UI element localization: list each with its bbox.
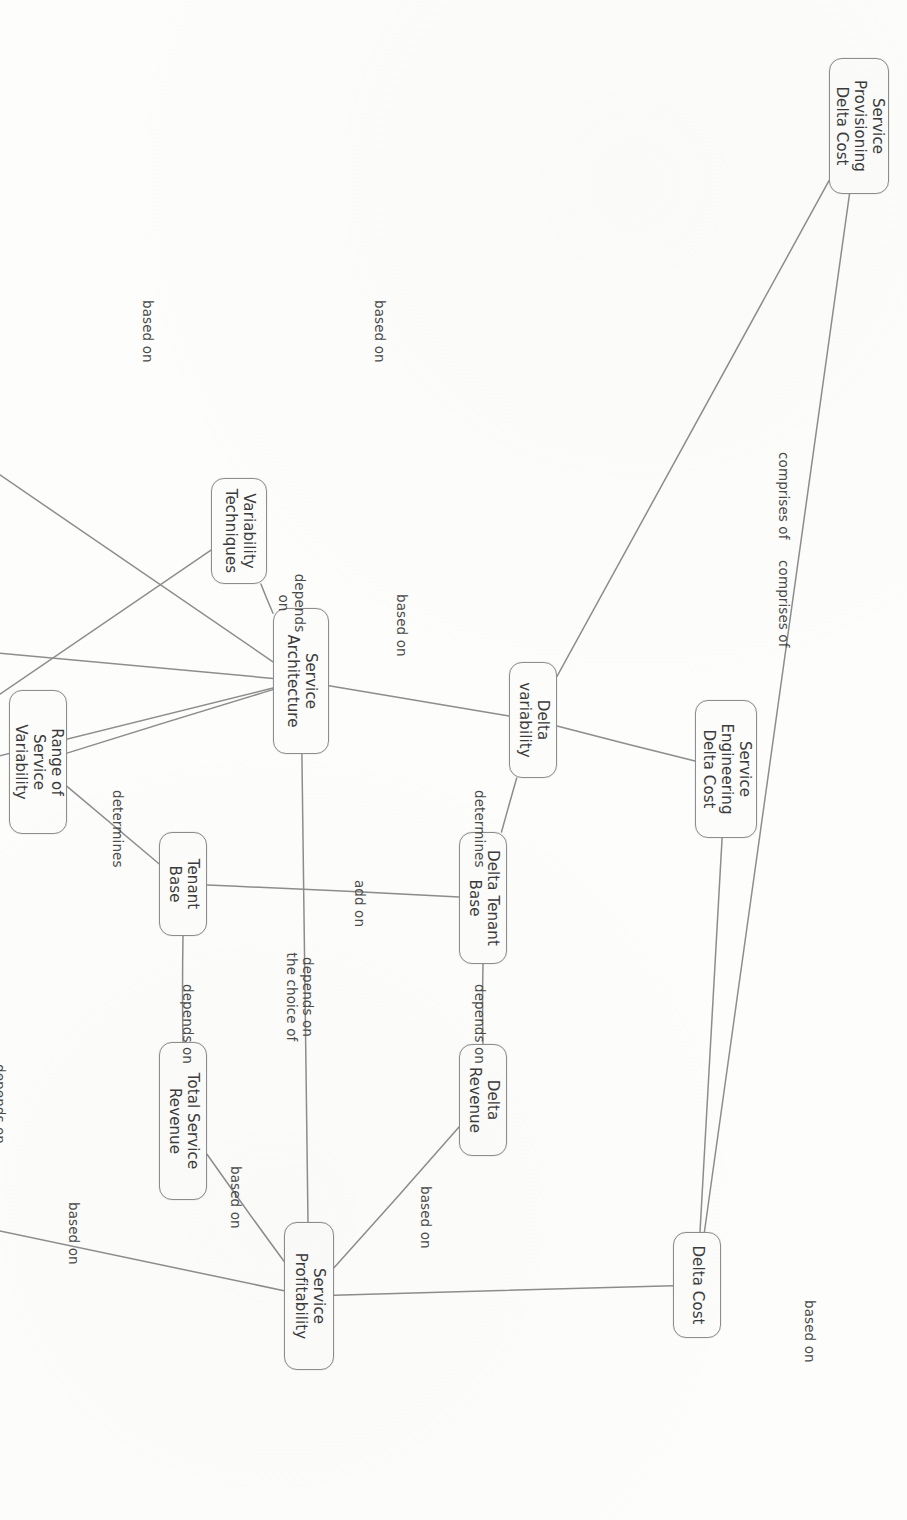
edge-label-comprises-of-1: comprises of [775,452,791,540]
concept-map: Service Provisioning Delta Cost Service … [0,0,907,1520]
node-service-provisioning-delta-cost[interactable]: Service Provisioning Delta Cost [829,58,889,194]
edge-delta-tenant-base-to-tenant-base [207,885,459,897]
node-service-profitability[interactable]: Service Profitability [284,1222,334,1370]
edge-service-architecture-to-service-provisioing-cost [0,199,273,662]
edge-service-architecture-to-range-of-service-variability [67,690,273,754]
edge-label-line2: the choice of [284,953,300,1042]
node-variability-techniques[interactable]: Variability Techniques [211,478,267,584]
node-label-line2: Delta Cost [832,64,850,188]
node-label-line2: Techniques [221,489,239,573]
node-label-line1: Range of [47,696,65,828]
edge-label-depends-on-deltarevenue: depends on [471,984,487,1064]
edge-service-profitability-to-delta-revenue [334,1127,459,1268]
edge-label-line1: depends [292,574,308,633]
node-range-of-service-variability[interactable]: Range of Service Variability [9,690,67,834]
edge-delta-tenant-base-to-delta-variability [502,778,517,832]
node-label: Delta Cost [688,1245,706,1324]
edge-delta-variability-to-service-engineering-delta-cost [557,726,695,761]
edge-service-architecture-to-delta-variability [329,686,509,716]
edge-service-architecture-to-variability-techniques [261,584,273,613]
node-delta-cost[interactable]: Delta Cost [673,1232,721,1338]
edge-label-based-on-sp-deltarevenue: based on [417,1186,433,1249]
edge-label-depends-on-sp: depends on [0,1064,7,1144]
edge-delta-cost-to-service-engineering-delta-cost [700,838,722,1232]
edge-label-depends-on-the-choice-of: depends on the choice of [284,942,315,1052]
node-label-line2: Delta Cost [699,706,717,832]
edge-label-based-on-deltavar-spdelta: based on [371,300,387,363]
node-label-line2: Service Variability [11,696,46,828]
node-delta-variability[interactable]: Delta variability [509,662,557,778]
edge-label-based-on-deltacost: based on [801,1300,817,1363]
node-label: Tenant Base [165,838,200,930]
node-total-service-revenue[interactable]: Total Service Revenue [159,1042,207,1200]
node-label: Delta variability [515,668,550,772]
edge-service-profitability-to-delta-cost [334,1286,673,1296]
edge-layer [0,0,907,1520]
edge-label-depends-on-tenantbase: depends on [179,984,195,1064]
edge-service-architecture-to-service-functionality-engineering-cost [0,635,273,679]
edge-label-depends-on-varTech: depends on [276,568,307,638]
node-service-engineering-delta-cost[interactable]: Service Engineering Delta Cost [695,700,757,838]
edge-label-add-on: add on [351,880,367,927]
node-tenant-base[interactable]: Tenant Base [159,832,207,936]
node-label: Delta Revenue [465,1050,500,1150]
edge-label-line2: on [276,594,292,611]
edge-label-based-on-sp-totalcost: based on [65,1202,81,1265]
edge-label-comprises-of-2: comprises of [775,560,791,648]
node-label-line1: Service Provisioning [850,64,885,188]
edge-label-based-on-arch-svec: based on [139,300,155,363]
edge-label-based-on-arch-deltavar: based on [393,594,409,657]
node-label: Service Profitability [291,1228,326,1364]
edge-label-determines-range: determines [109,790,125,868]
node-label-line1: Service Engineering [717,706,752,832]
edge-service-profitability-to-total-service-revenue [207,1154,284,1261]
edge-label-determines-deltavariability: determines [471,790,487,868]
node-label: Total Service Revenue [165,1048,200,1194]
edge-label-line1: depends on [300,957,316,1037]
node-label-line1: Variability [239,489,257,573]
diagram-canvas: Service Provisioning Delta Cost Service … [0,0,907,1520]
edge-label-based-on-sp-totalrevenue: based on [227,1166,243,1229]
